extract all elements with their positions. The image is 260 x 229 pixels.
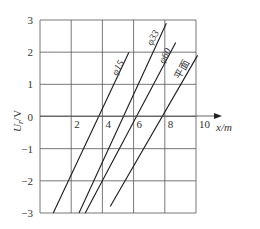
series-label-phi60: φ60 (156, 46, 173, 65)
x-tick-label: 8 (168, 118, 174, 130)
svg-text:Ur/V: Ur/V (11, 110, 25, 132)
series-line (110, 55, 197, 206)
x-axis-label: x/m (215, 121, 232, 133)
series-label-phi15: φ15 (109, 58, 126, 77)
series-label-phi33: φ33 (144, 28, 161, 47)
x-tick-label: 10 (199, 118, 211, 130)
x-tick-label: 6 (137, 118, 143, 130)
chart: 3210−1−2−3246810 x/m Ur/V φ15 φ33 φ60 平面 (0, 0, 260, 229)
x-axis-arrow-icon (214, 113, 222, 119)
x-tick-label: 4 (105, 118, 111, 130)
y-tick-label: −2 (21, 175, 33, 187)
y-tick-label: −1 (21, 143, 33, 155)
y-tick-label: 2 (28, 46, 34, 58)
y-tick-label: 3 (28, 14, 34, 26)
x-tick-label: 2 (74, 118, 80, 130)
y-axis-label: Ur/V (11, 110, 25, 132)
y-tick-label: 1 (28, 78, 34, 90)
y-tick-label: 0 (28, 111, 34, 123)
series-label-plane: 平面 (172, 58, 191, 81)
y-tick-label: −3 (21, 207, 33, 219)
series-line (85, 43, 175, 213)
